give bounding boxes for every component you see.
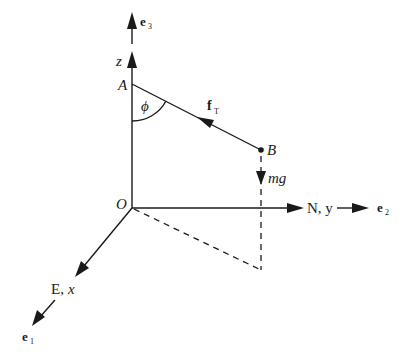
e1-arrow [32,300,55,326]
x-axis [75,208,132,277]
e2-label: e [377,200,383,215]
gravity-label: mg [268,170,287,186]
e1-subscript: 1 [30,337,34,346]
tension-subscript: T [214,107,219,116]
ground-projection-line [134,209,261,270]
point-a-label: A [117,77,128,93]
y-axis-label: N, y [307,200,333,216]
force-diagram: e 3 z A ϕ f T B mg N, y e 2 O E [0,0,408,358]
tension-force-arrow [132,84,261,150]
x-axis-label-var: x [67,281,75,297]
z-axis [127,51,137,208]
point-b-dot [258,147,264,153]
origin-label: O [116,196,127,212]
e1-label: e [22,329,28,344]
e2-arrow [337,203,369,213]
point-b-label: B [267,142,276,158]
e3-subscript: 3 [148,22,152,31]
e3-label: e [140,14,146,29]
angle-arc [132,101,166,121]
tension-label: f [207,98,212,113]
y-axis [132,203,304,213]
angle-label: ϕ [141,98,149,114]
e2-subscript: 2 [385,208,389,217]
z-axis-label: z [115,53,122,69]
e3-arrow [127,12,137,44]
gravity-arrow-head [256,171,266,185]
x-axis-label-prefix: E, [51,281,64,297]
